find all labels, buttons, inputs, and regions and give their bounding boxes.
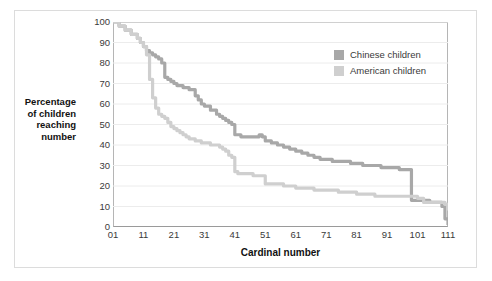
x-tick-label: 31: [199, 230, 210, 240]
y-axis-ticks: 0102030405060708090100: [78, 22, 110, 227]
x-axis-label: Cardinal number: [113, 247, 448, 258]
y-tick-label: 10: [80, 202, 110, 212]
x-tick-label: 41: [230, 230, 241, 240]
x-axis-ticks: 01112131415161718191101111: [113, 230, 448, 246]
x-tick-label: 101: [410, 230, 426, 240]
legend-item-chinese-children: Chinese children: [334, 48, 446, 62]
y-tick-label: 40: [80, 140, 110, 150]
x-tick-label: 21: [169, 230, 180, 240]
chart-figure: Percentage of children reaching number 0…: [0, 0, 492, 281]
x-tick-label: 51: [260, 230, 271, 240]
y-axis-label-line-3: reaching: [18, 119, 76, 131]
y-tick-label: 80: [80, 58, 110, 68]
y-axis-label-line-1: Percentage: [18, 96, 76, 108]
x-tick-label: 61: [290, 230, 301, 240]
legend-swatch-icon-chinese: [334, 50, 344, 60]
chart-legend: Chinese children American children: [334, 48, 446, 80]
y-tick-label: 70: [80, 79, 110, 89]
y-axis-label: Percentage of children reaching number: [18, 96, 76, 142]
x-tick-label: 111: [441, 230, 455, 240]
x-tick-label: 91: [382, 230, 393, 240]
y-tick-label: 50: [80, 120, 110, 130]
legend-label-american: American children: [350, 66, 426, 76]
legend-label-chinese: Chinese children: [350, 50, 421, 60]
y-tick-label: 30: [80, 161, 110, 171]
y-axis-label-line-4: number: [18, 131, 76, 143]
y-tick-label: 0: [80, 222, 110, 232]
y-tick-label: 90: [80, 38, 110, 48]
x-tick-label: 01: [108, 230, 119, 240]
y-tick-label: 20: [80, 181, 110, 191]
x-tick-label: 11: [139, 230, 149, 240]
legend-swatch-icon-american: [334, 66, 344, 76]
x-tick-label: 81: [351, 230, 362, 240]
legend-item-american-children: American children: [334, 64, 446, 78]
y-tick-label: 60: [80, 99, 110, 109]
y-tick-label: 100: [80, 17, 110, 27]
x-tick-label: 71: [321, 230, 332, 240]
y-axis-label-line-2: of children: [18, 108, 76, 120]
